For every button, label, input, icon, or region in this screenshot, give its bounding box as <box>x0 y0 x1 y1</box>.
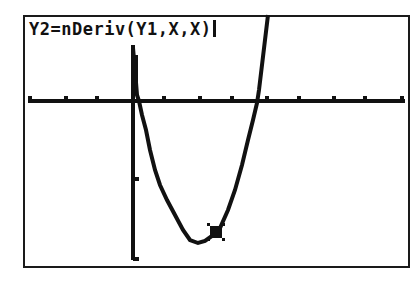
x-tick <box>28 96 32 101</box>
x-tick <box>162 96 166 101</box>
trace-cursor[interactable] <box>207 223 225 241</box>
function-curve <box>133 15 268 243</box>
x-tick <box>297 96 301 101</box>
x-tick <box>265 96 269 101</box>
x-tick <box>400 96 404 101</box>
x-tick <box>95 96 99 101</box>
equation-text: Y2=nDeriv(Y1,X,X) <box>29 19 212 39</box>
y-tick <box>133 257 139 261</box>
x-tick <box>363 96 367 101</box>
x-tick <box>332 96 336 101</box>
y-tick <box>133 177 139 181</box>
x-tick <box>198 96 202 101</box>
text-cursor <box>213 20 216 37</box>
x-tick <box>230 96 234 101</box>
graph-plot <box>0 0 420 285</box>
equation-entry[interactable]: Y2=nDeriv(Y1,X,X) <box>29 19 216 39</box>
x-tick <box>64 96 68 101</box>
